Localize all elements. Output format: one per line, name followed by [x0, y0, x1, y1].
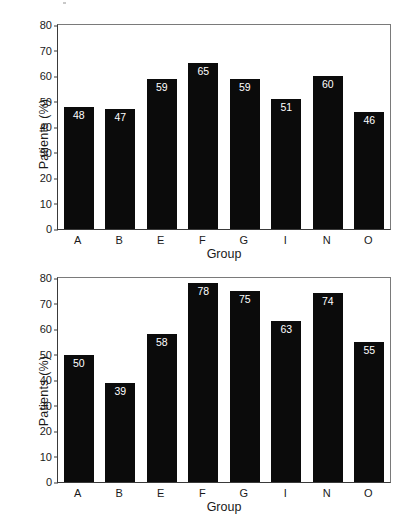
- x-tick-label-top-E: E: [157, 234, 164, 246]
- bar-top-O: 46: [354, 112, 384, 229]
- bar-value-label-top-A: 48: [64, 110, 94, 122]
- y-tick-label-top-60: 60: [40, 71, 58, 82]
- y-tick-label-bottom-10: 10: [40, 451, 58, 462]
- x-tick-label-bottom-F: F: [199, 487, 206, 499]
- x-tick-label-top-G: G: [239, 234, 248, 246]
- bars-container-bottom: 5039587875637455: [58, 278, 390, 482]
- scan-speck: [63, 2, 66, 4]
- bar-bottom-F: 78: [188, 283, 218, 482]
- bar-value-label-top-G: 59: [230, 82, 260, 94]
- bar-value-label-bottom-N: 74: [313, 296, 343, 308]
- x-tick-label-top-N: N: [323, 234, 331, 246]
- chart-top: Patients (%) 4847596559516046 0102030405…: [0, 6, 411, 262]
- x-tick-label-top-I: I: [284, 234, 287, 246]
- bar-value-label-top-O: 46: [354, 115, 384, 127]
- bar-top-G: 59: [230, 79, 260, 229]
- y-tick-label-top-50: 50: [40, 96, 58, 107]
- plot-area-bottom: 5039587875637455 01020304050607080: [57, 277, 391, 483]
- bar-value-label-top-I: 51: [271, 102, 301, 114]
- x-tick-label-bottom-I: I: [284, 487, 287, 499]
- bar-top-B: 47: [105, 109, 135, 229]
- y-axis-title-bottom: Patients (%): [37, 356, 51, 426]
- y-tick-label-bottom-50: 50: [40, 349, 58, 360]
- bar-value-label-bottom-G: 75: [230, 294, 260, 306]
- y-tick-label-top-30: 30: [40, 147, 58, 158]
- x-tick-label-top-O: O: [364, 234, 373, 246]
- y-tick-label-bottom-40: 40: [40, 375, 58, 386]
- bar-bottom-A: 50: [64, 355, 94, 483]
- bar-top-A: 48: [64, 107, 94, 229]
- y-tick-label-bottom-80: 80: [40, 273, 58, 284]
- y-tick-label-top-80: 80: [40, 20, 58, 31]
- plot-area-top: 4847596559516046 01020304050607080: [57, 24, 391, 230]
- bar-value-label-top-F: 65: [188, 66, 218, 78]
- x-axis-title-bottom: Group: [57, 500, 391, 514]
- y-tick-label-bottom-20: 20: [40, 426, 58, 437]
- bars-container-top: 4847596559516046: [58, 25, 390, 229]
- bar-value-label-bottom-A: 50: [64, 358, 94, 370]
- x-tick-label-bottom-B: B: [116, 487, 123, 499]
- bar-value-label-bottom-I: 63: [271, 324, 301, 336]
- y-tick-label-top-40: 40: [40, 122, 58, 133]
- bar-top-I: 51: [271, 99, 301, 229]
- bar-value-label-bottom-O: 55: [354, 345, 384, 357]
- x-tick-label-bottom-G: G: [239, 487, 248, 499]
- x-tick-label-bottom-E: E: [157, 487, 164, 499]
- y-tick-label-top-0: 0: [46, 224, 58, 235]
- bar-value-label-top-N: 60: [313, 79, 343, 91]
- bar-bottom-O: 55: [354, 342, 384, 482]
- bar-bottom-E: 58: [147, 334, 177, 482]
- bar-bottom-I: 63: [271, 321, 301, 482]
- bar-value-label-bottom-B: 39: [105, 386, 135, 398]
- bar-top-N: 60: [313, 76, 343, 229]
- y-tick-label-bottom-60: 60: [40, 324, 58, 335]
- y-tick-label-bottom-70: 70: [40, 298, 58, 309]
- y-tick-label-bottom-0: 0: [46, 477, 58, 488]
- x-tick-label-bottom-A: A: [74, 487, 81, 499]
- bar-bottom-N: 74: [313, 293, 343, 482]
- y-tick-label-bottom-30: 30: [40, 400, 58, 411]
- chart-bottom: Patients (%) 5039587875637455 0102030405…: [0, 259, 411, 523]
- y-tick-label-top-70: 70: [40, 45, 58, 56]
- bar-value-label-bottom-F: 78: [188, 286, 218, 298]
- bar-value-label-bottom-E: 58: [147, 337, 177, 349]
- x-tick-label-top-F: F: [199, 234, 206, 246]
- bar-bottom-B: 39: [105, 383, 135, 482]
- x-tick-label-bottom-O: O: [364, 487, 373, 499]
- y-tick-label-top-20: 20: [40, 173, 58, 184]
- x-tick-label-bottom-N: N: [323, 487, 331, 499]
- bar-top-F: 65: [188, 63, 218, 229]
- y-tick-label-top-10: 10: [40, 198, 58, 209]
- bar-chart-figure: Patients (%) 4847596559516046 0102030405…: [0, 0, 411, 523]
- x-tick-label-top-B: B: [116, 234, 123, 246]
- y-axis-title-top: Patients (%): [37, 99, 51, 169]
- x-tick-label-top-A: A: [74, 234, 81, 246]
- bar-value-label-top-E: 59: [147, 82, 177, 94]
- bar-bottom-G: 75: [230, 291, 260, 482]
- bar-top-E: 59: [147, 79, 177, 229]
- bar-value-label-top-B: 47: [105, 112, 135, 124]
